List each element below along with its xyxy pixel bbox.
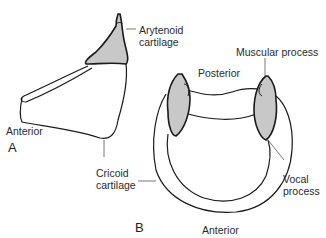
panel-letter-a: A bbox=[8, 142, 17, 154]
panel-b-right-arytenoid bbox=[254, 76, 277, 140]
label-posterior: Posterior bbox=[198, 67, 240, 79]
label-cricoid-line1: Cricoid bbox=[96, 167, 136, 179]
label-anterior-a: Anterior bbox=[6, 125, 43, 137]
label-vocal-line1: Vocal bbox=[283, 173, 320, 185]
label-muscular-process: Muscular process bbox=[236, 46, 318, 58]
label-arytenoid-line1: Arytenoid bbox=[139, 24, 183, 36]
label-arytenoid-line2: cartilage bbox=[139, 36, 183, 48]
panel-letter-b: B bbox=[135, 222, 144, 234]
label-vocal-line2: process bbox=[283, 185, 320, 197]
label-cricoid-line2: cartilage bbox=[96, 179, 136, 191]
label-cricoid-cartilage: Cricoid cartilage bbox=[96, 167, 136, 191]
label-anterior-b: Anterior bbox=[202, 224, 239, 236]
label-vocal-process: Vocal process bbox=[283, 173, 320, 197]
panel-b-left-arytenoid bbox=[167, 74, 190, 136]
label-arytenoid-cartilage: Arytenoid cartilage bbox=[139, 24, 183, 48]
panel-a-arytenoid bbox=[85, 14, 127, 64]
